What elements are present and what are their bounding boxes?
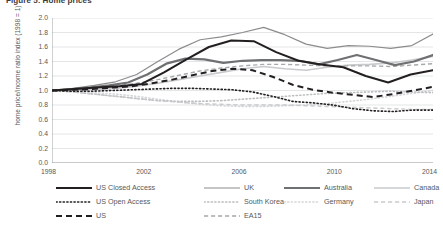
x-tick-label: 2006 [232, 169, 247, 176]
legend-label: US [96, 212, 106, 219]
x-tick-label: 2002 [136, 169, 151, 176]
legend-swatch-dashed-line-icon [56, 212, 92, 220]
legend-label: South Korea [244, 198, 284, 205]
y-axis-label: home price/income ratio index (1998 = 1) [14, 0, 21, 141]
y-tick-label: 0.6 [39, 117, 48, 124]
legend-item-canada[interactable]: Canada [374, 184, 439, 192]
legend-label: Japan [414, 198, 434, 205]
y-tick-label: 0.2 [39, 146, 48, 153]
figure-container: Figure 5. Home prices home price/income … [0, 0, 443, 230]
legend-label: US Closed Access [96, 184, 155, 191]
legend-item-uk[interactable]: UK [204, 184, 254, 192]
series-line-australia [52, 55, 433, 91]
legend-swatch-solid-line-icon [204, 184, 240, 192]
legend-label: Germany [324, 198, 354, 205]
legend-item-us-open-access[interactable]: US Open Access [56, 198, 150, 206]
legend-swatch-dashed-line-icon [374, 198, 410, 206]
legend-item-us-closed-access[interactable]: US Closed Access [56, 184, 155, 192]
legend-item-germany[interactable]: Germany [284, 198, 354, 206]
y-tick-label: 1.2 [39, 73, 48, 80]
legend-item-japan[interactable]: Japan [374, 198, 434, 206]
legend-swatch-dotted-line-icon [204, 198, 240, 206]
x-tick-label: 2010 [327, 169, 342, 176]
legend-item-south-korea[interactable]: South Korea [204, 198, 284, 206]
legend-swatch-solid-line-icon [56, 184, 92, 192]
chart-svg [52, 18, 433, 163]
legend-swatch-dashed-line-icon [204, 212, 240, 220]
y-tick-label: 1.8 [39, 30, 48, 37]
legend-item-australia[interactable]: Australia [284, 184, 352, 192]
y-tick-label: 1.0 [39, 88, 48, 95]
y-tick-label: 1.4 [39, 59, 48, 66]
y-tick-label: 0.8 [39, 102, 48, 109]
y-tick-label: 1.6 [39, 44, 48, 51]
legend-swatch-solid-line-icon [284, 184, 320, 192]
legend-item-ea15[interactable]: EA15 [204, 212, 262, 220]
y-tick-label: 0.0 [39, 160, 48, 167]
plot-area [52, 18, 433, 163]
legend-label: EA15 [244, 212, 262, 219]
x-tick-label: 1998 [41, 169, 56, 176]
legend-label: UK [244, 184, 254, 191]
legend-item-us[interactable]: US [56, 212, 106, 220]
legend-swatch-dotted-line-icon [56, 198, 92, 206]
legend-label: Canada [414, 184, 439, 191]
x-tick-label: 2014 [422, 169, 437, 176]
legend-label: US Open Access [96, 198, 150, 205]
y-tick-label: 0.4 [39, 131, 48, 138]
y-axis-ticks: 2.01.81.61.41.21.00.80.60.40.20.0 [22, 14, 48, 169]
legend-label: Australia [324, 184, 352, 191]
chart-legend: US Closed AccessUKAustraliaCanadaUS Open… [56, 184, 441, 226]
legend-swatch-dotted-line-icon [284, 198, 320, 206]
y-tick-label: 2.0 [39, 15, 48, 22]
legend-swatch-solid-line-icon [374, 184, 410, 192]
x-axis-ticks: 19982002200620102014 [52, 166, 433, 178]
